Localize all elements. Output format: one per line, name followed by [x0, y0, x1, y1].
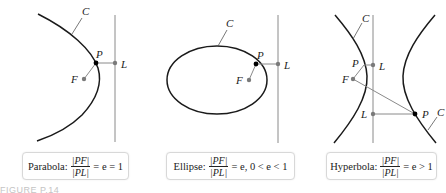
ellipse-box-title: Ellipse: [174, 161, 206, 172]
hyperbola-label-c-right: C [437, 106, 445, 118]
hyperbola-label-c-left: C [362, 12, 370, 24]
parabola-label-c: C [82, 5, 90, 17]
ellipse-c-leader [218, 30, 227, 46]
hyperbola-label-p-lower: P [421, 108, 429, 120]
ellipse-equation-box: Ellipse: |PF| |PL| = e, 0 < e < 1 [166, 152, 295, 180]
parabola-ratio-fraction: |PF| |PL| [71, 155, 91, 178]
hyperbola-focus-f [351, 77, 355, 81]
hyperbola-point-l-upper [371, 63, 375, 67]
parabola-pf-segment [84, 63, 96, 79]
parabola-label-l: L [120, 58, 127, 70]
parabola-label-p: P [95, 48, 103, 60]
ellipse-point-l [276, 62, 280, 66]
fraction-numerator: |PF| [71, 155, 91, 167]
hyperbola-ratio-fraction: |PF| |PL| [380, 155, 400, 178]
hyperbola-box-title: Hyperbola: [330, 161, 377, 172]
ellipse-ratio-fraction: |PF| |PL| [209, 155, 229, 178]
ellipse-label-l: L [283, 59, 290, 71]
figure-caption: FIGURE P.14 [0, 185, 59, 193]
parabola-equation-box: Parabola: |PF| |PL| = e = 1 [22, 152, 129, 180]
parabola-panel: C P L F [37, 5, 127, 142]
hyperbola-panel: C P L F L P C [334, 12, 445, 143]
hyperbola-box-relation: = e > 1 [403, 161, 433, 172]
ellipse-panel: C P L F [167, 15, 290, 143]
hyperbola-right-branch [403, 15, 436, 143]
parabola-box-title: Parabola: [28, 161, 68, 172]
ellipse-label-c: C [226, 17, 234, 29]
ellipse-label-p: P [256, 49, 264, 61]
parabola-box-relation: = e = 1 [93, 161, 123, 172]
hyperbola-c-leader-right [428, 117, 437, 130]
ellipse-pf-segment [249, 64, 256, 80]
hyperbola-label-f: F [341, 73, 349, 85]
hyperbola-equation-box: Hyperbola: |PF| |PL| = e > 1 [326, 152, 437, 180]
parabola-point-l [113, 61, 117, 65]
hyperbola-point-p-lower [413, 112, 418, 117]
parabola-c-leader [72, 18, 82, 34]
hyperbola-point-l-lower [371, 112, 375, 116]
ellipse-focus-f [247, 78, 251, 82]
hyperbola-label-l-lower: L [360, 108, 367, 120]
parabola-focus-f [82, 77, 86, 81]
parabola-curve [37, 14, 100, 141]
fraction-denominator: |PL| [381, 167, 400, 178]
hyperbola-c-leader-left [353, 23, 362, 39]
fraction-denominator: |PL| [71, 167, 90, 178]
fraction-denominator: |PL| [209, 167, 228, 178]
fraction-numerator: |PF| [380, 155, 400, 167]
parabola-label-f: F [70, 73, 78, 85]
ellipse-box-relation: = e, 0 < e < 1 [231, 161, 287, 172]
hyperbola-left-branch [334, 15, 367, 143]
ellipse-curve [167, 46, 267, 114]
parabola-point-p [94, 61, 99, 66]
ellipse-label-f: F [235, 74, 243, 86]
fraction-numerator: |PF| [209, 155, 229, 167]
ellipse-point-p [254, 62, 259, 67]
hyperbola-label-p-upper: P [351, 57, 359, 69]
hyperbola-label-l-upper: L [378, 60, 385, 72]
